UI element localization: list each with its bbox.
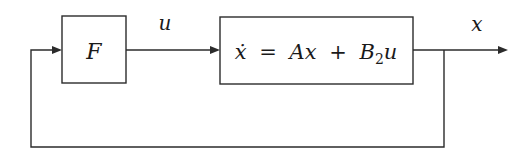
block-plant-label: ẋ = Ax + B2u [235,40,398,67]
block-F-label: F [85,39,102,64]
plant-B: B [358,40,374,64]
signal-x-arrowhead-icon [498,46,508,54]
plant-xdot: ẋ [235,40,247,64]
plant-plus: + [329,40,347,64]
signal-u-label: u [159,11,172,35]
plant-A: A [287,40,304,64]
block-F: F [62,16,126,83]
plant-x: x [305,40,317,64]
plant-u: u [384,40,398,64]
signal-x-label: x [471,12,482,36]
feedback-block-diagram: F u ẋ = Ax + B2u x [0,0,532,153]
plant-equals: = [259,40,277,64]
plant-subscript: 2 [375,51,384,67]
signal-u-arrowhead-icon [210,46,220,54]
feedback-arrowhead-icon [52,46,62,54]
block-plant: ẋ = Ax + B2u [220,17,413,84]
